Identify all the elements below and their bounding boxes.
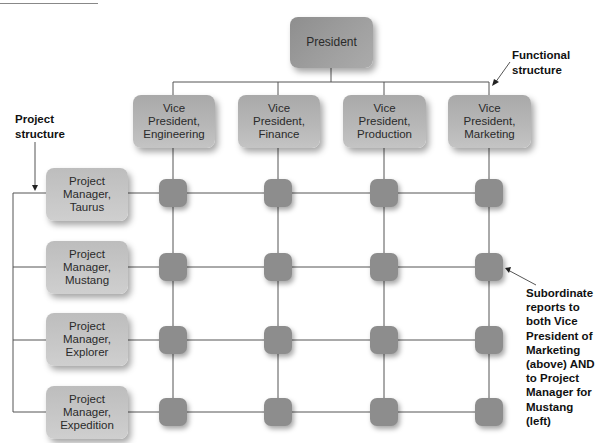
subordinate-node [264,398,292,426]
subordinate-node [159,398,187,426]
subordinate-node [264,253,292,281]
subordinate-line: President of [526,329,601,343]
subordinate-node [370,326,398,354]
subordinate-line: reports to [526,300,601,314]
pm-label-line3: Mustang [63,274,111,287]
vp-label-line2: President, [143,115,204,128]
subordinate-line: both Vice [526,314,601,328]
vp-label-line1: Vice [357,102,412,115]
project-label-line2: structure [15,127,65,142]
pm-label-line1: Project [63,175,111,188]
subordinate-node [475,179,503,207]
subordinate-line: Marketing [526,343,601,357]
vp-engineering-box: Vice President, Engineering [133,95,215,148]
subordinate-annotation: Subordinate reports to both Vice Preside… [526,286,601,428]
subordinate-node [159,179,187,207]
subordinate-line: to Project [526,371,601,385]
subordinate-node [159,253,187,281]
subordinate-line: Mustang (left) [526,400,601,428]
pm-label-line1: Project [63,320,111,333]
project-label-line1: Project [15,112,65,127]
subordinate-node [370,179,398,207]
pm-expedition-box: Project Manager, Expedition [46,386,128,439]
vp-label-line2: President, [253,115,305,128]
subordinate-node-highlighted [475,253,503,281]
subordinate-node [264,326,292,354]
vp-marketing-box: Vice President, Marketing [448,95,531,148]
functional-label-line1: Functional [512,48,570,63]
vp-label-line3: Finance [253,128,305,141]
vp-finance-box: Vice President, Finance [238,95,320,148]
vp-label-line1: Vice [253,102,305,115]
vp-label-line1: Vice [143,102,204,115]
pm-explorer-box: Project Manager, Explorer [46,313,128,366]
pm-label-line1: Project [60,393,114,406]
subordinate-node [475,326,503,354]
pm-label-line2: Manager, [63,333,111,346]
subordinate-line: (above) AND [526,357,601,371]
functional-structure-label: Functional structure [512,48,570,77]
subordinate-line: Manager for [526,385,601,399]
pm-label-line3: Expedition [60,419,114,432]
vp-label-line3: Marketing [464,128,516,141]
pm-label-line2: Manager, [63,261,111,274]
pm-mustang-box: Project Manager, Mustang [46,241,128,294]
pm-label-line2: Manager, [60,406,114,419]
pm-taurus-box: Project Manager, Taurus [46,168,128,221]
vp-label-line1: Vice [464,102,516,115]
subordinate-node [159,326,187,354]
vp-label-line2: President, [357,115,412,128]
pm-label-line1: Project [63,248,111,261]
president-box: President [290,17,373,68]
subordinate-line: Subordinate [526,286,601,300]
vp-production-box: Vice President, Production [343,95,426,148]
pm-label-line3: Explorer [63,346,111,359]
project-structure-label: Project structure [15,112,65,141]
subordinate-node [475,398,503,426]
vp-label-line3: Production [357,128,412,141]
vp-label-line2: President, [464,115,516,128]
president-label: President [306,36,357,49]
subordinate-node [370,398,398,426]
vp-label-line3: Engineering [143,128,204,141]
functional-label-line2: structure [512,63,570,78]
subordinate-node [264,179,292,207]
pm-label-line3: Taurus [63,201,111,214]
subordinate-node [370,253,398,281]
pm-label-line2: Manager, [63,188,111,201]
